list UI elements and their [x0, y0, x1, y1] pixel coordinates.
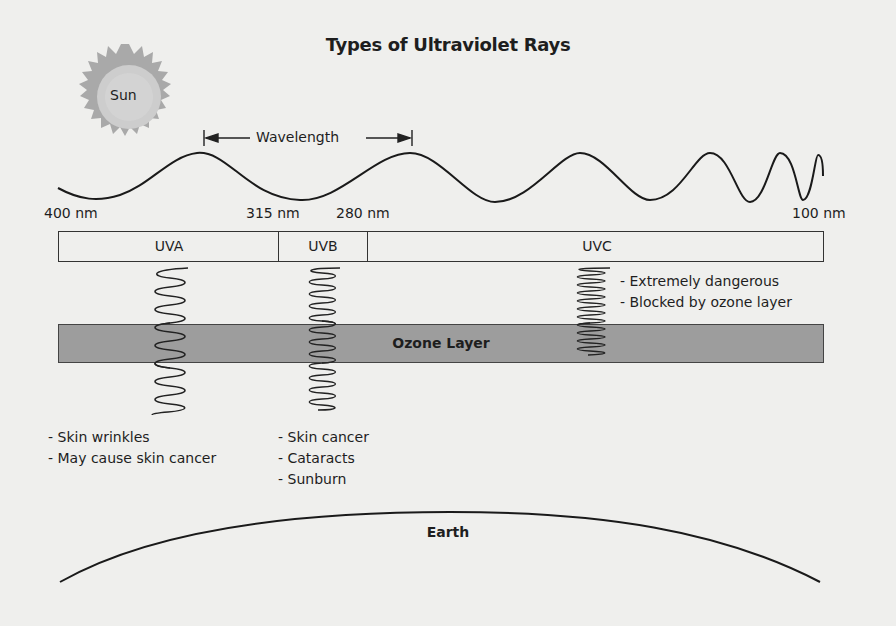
- uvc-effect-item: - Blocked by ozone layer: [620, 292, 792, 313]
- uv-band-bar: UVA UVB UVC: [58, 231, 824, 262]
- band-divider-315: [278, 232, 279, 261]
- tick-280nm: 280 nm: [336, 205, 390, 221]
- uva-effect-item: - May cause skin cancer: [48, 448, 216, 469]
- band-divider-280: [367, 232, 368, 261]
- uvb-effect-item: - Skin cancer: [278, 427, 369, 448]
- uvc-effects: - Extremely dangerous - Blocked by ozone…: [620, 271, 792, 313]
- earth-label: Earth: [0, 524, 896, 540]
- uvb-effect-item: - Sunburn: [278, 469, 369, 490]
- uva-effects: - Skin wrinkles - May cause skin cancer: [48, 427, 216, 469]
- wavelength-label: Wavelength: [256, 129, 339, 145]
- ozone-layer-label: Ozone Layer: [59, 335, 823, 351]
- sun-label: Sun: [110, 87, 137, 103]
- tick-100nm: 100 nm: [792, 205, 846, 221]
- uvb-effects: - Skin cancer - Cataracts - Sunburn: [278, 427, 369, 490]
- band-label-uvc: UVC: [582, 238, 612, 254]
- wavelength-wave: [58, 153, 823, 202]
- tick-315nm: 315 nm: [246, 205, 300, 221]
- band-label-uvb: UVB: [308, 238, 337, 254]
- earth-arc: [60, 512, 820, 582]
- uvb-effect-item: - Cataracts: [278, 448, 369, 469]
- ozone-layer: Ozone Layer: [58, 324, 824, 363]
- uvc-effect-item: - Extremely dangerous: [620, 271, 792, 292]
- uva-effect-item: - Skin wrinkles: [48, 427, 216, 448]
- band-label-uva: UVA: [155, 238, 184, 254]
- tick-400nm: 400 nm: [44, 205, 98, 221]
